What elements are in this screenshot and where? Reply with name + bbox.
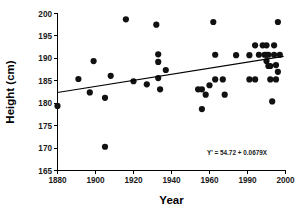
y-tick-label: 195 — [38, 32, 52, 41]
data-point — [275, 69, 281, 75]
data-point — [102, 95, 108, 101]
data-point — [157, 86, 163, 92]
data-point — [267, 76, 273, 82]
data-point — [271, 52, 277, 58]
data-point — [206, 82, 212, 88]
data-point — [220, 76, 226, 82]
chart-canvas: 165170175180185190195200 188019001920194… — [0, 0, 303, 212]
x-tick-label: 2000 — [276, 176, 295, 185]
data-point — [155, 51, 161, 57]
data-point — [163, 67, 169, 73]
x-axis-ticks: 1880190019201940196019902000 — [48, 171, 295, 185]
data-point — [252, 42, 258, 48]
y-axis-title: Height (cm) — [4, 60, 16, 123]
regression-equation-annotation: Y' = 54.72 + 0.0679X — [207, 149, 268, 156]
data-point — [199, 106, 205, 112]
data-point — [144, 81, 150, 87]
x-tick-label: 1940 — [162, 176, 181, 185]
data-point — [256, 52, 262, 58]
data-point — [275, 19, 281, 25]
y-tick-label: 200 — [38, 10, 52, 19]
data-point — [75, 76, 81, 82]
data-point — [91, 58, 97, 64]
data-point — [246, 76, 252, 82]
data-point — [123, 16, 129, 22]
data-point — [87, 89, 93, 95]
data-point — [263, 42, 269, 48]
data-point — [102, 144, 108, 150]
data-point — [108, 73, 114, 79]
data-point — [199, 86, 205, 92]
data-point — [273, 76, 279, 82]
data-point — [155, 59, 161, 65]
data-point — [212, 76, 218, 82]
y-tick-label: 180 — [38, 99, 52, 108]
data-point — [153, 22, 159, 28]
data-points — [54, 16, 283, 150]
data-point — [246, 52, 252, 58]
data-point — [269, 98, 275, 104]
data-point — [265, 52, 271, 58]
data-point — [267, 63, 273, 69]
x-tick-label: 1880 — [48, 176, 67, 185]
x-tick-label: 1920 — [124, 176, 143, 185]
data-point — [222, 92, 228, 98]
data-point — [273, 62, 279, 68]
x-axis-title: Year — [159, 194, 184, 206]
data-point — [252, 76, 258, 82]
y-axis-ticks: 165170175180185190195200 — [38, 10, 57, 176]
data-point — [271, 42, 277, 48]
y-tick-label: 165 — [38, 167, 52, 176]
y-tick-label: 190 — [38, 54, 52, 63]
data-point — [203, 92, 209, 98]
data-point — [212, 52, 218, 58]
data-point — [210, 19, 216, 25]
y-tick-label: 170 — [38, 144, 52, 153]
scatter-chart-figure: 165170175180185190195200 188019001920194… — [0, 0, 303, 212]
data-point — [233, 52, 239, 58]
y-tick-label: 175 — [38, 122, 52, 131]
data-point — [54, 103, 60, 109]
x-tick-label: 1960 — [200, 176, 219, 185]
x-tick-label: 1990 — [238, 176, 257, 185]
y-tick-label: 185 — [38, 77, 52, 86]
x-tick-label: 1900 — [86, 176, 105, 185]
